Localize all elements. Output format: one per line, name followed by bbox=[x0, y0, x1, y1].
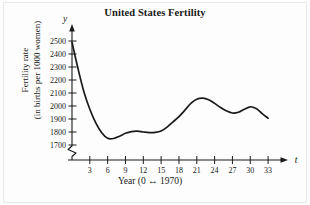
x-tick-label: 24 bbox=[211, 166, 219, 175]
fertility-chart-figure: United States Fertility 1700180019002000… bbox=[0, 0, 310, 205]
plot-area: 170018001900200021002200230024002500 369… bbox=[0, 0, 310, 205]
x-axis-ticks: 3691215182124273033 bbox=[88, 156, 272, 175]
x-axis-arrowhead bbox=[281, 157, 289, 163]
x-tick-label: 9 bbox=[123, 166, 127, 175]
x-axis-symbol: t bbox=[295, 155, 298, 165]
y-tick-label: 1900 bbox=[50, 115, 66, 124]
y-tick-label: 1700 bbox=[50, 141, 66, 150]
y-axis-caption-line1: Fertility rate bbox=[19, 10, 31, 130]
x-tick-label: 27 bbox=[228, 166, 236, 175]
x-tick-label: 6 bbox=[106, 166, 110, 175]
x-tick-label: 3 bbox=[88, 166, 92, 175]
y-tick-label: 2100 bbox=[50, 89, 66, 98]
x-tick-label: 21 bbox=[193, 166, 201, 175]
x-tick-label: 33 bbox=[264, 166, 272, 175]
y-axis-caption: Fertility rate (in births per 1000 women… bbox=[19, 10, 43, 130]
x-tick-label: 30 bbox=[246, 166, 254, 175]
y-tick-label: 2000 bbox=[50, 102, 66, 111]
x-tick-label: 12 bbox=[139, 166, 147, 175]
x-axis-caption: Year (0 ↔ 1970) bbox=[55, 176, 245, 186]
fertility-rate-curve bbox=[72, 42, 268, 139]
y-axis-arrowhead bbox=[69, 24, 75, 32]
y-tick-label: 2200 bbox=[50, 76, 66, 85]
y-axis-symbol: y bbox=[62, 14, 68, 24]
y-tick-label: 2300 bbox=[50, 63, 66, 72]
y-tick-label: 2500 bbox=[50, 37, 66, 46]
x-tick-label: 18 bbox=[175, 166, 183, 175]
y-axis-break-symbol bbox=[68, 141, 76, 160]
x-tick-label: 15 bbox=[157, 166, 165, 175]
y-axis-caption-line2: (in births per 1000 women) bbox=[31, 10, 43, 130]
y-tick-label: 2400 bbox=[50, 50, 66, 59]
y-tick-label: 1800 bbox=[50, 128, 66, 137]
